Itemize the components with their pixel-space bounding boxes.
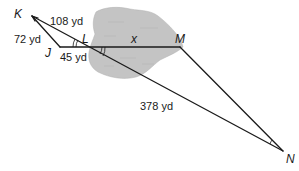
vertex-label-L: L [82, 32, 89, 46]
measure-LM: x [130, 32, 138, 46]
similar-triangles-diagram: K J L M N 108 yd 72 yd 45 yd x 378 yd [0, 0, 299, 171]
vertex-label-M: M [175, 32, 185, 46]
angle-mark-KLJ-2 [73, 39, 75, 47]
vertex-label-N: N [286, 152, 295, 166]
vertex-label-K: K [14, 7, 23, 21]
angle-mark-KLJ [76, 40, 78, 47]
measure-JL: 45 yd [60, 51, 87, 63]
segment-MN [180, 47, 283, 151]
measure-LN: 378 yd [140, 100, 173, 112]
measure-KL: 108 yd [50, 15, 83, 27]
vertex-label-J: J [44, 46, 52, 60]
angle-mark-N [270, 140, 272, 144]
measure-KJ: 72 yd [14, 33, 41, 45]
